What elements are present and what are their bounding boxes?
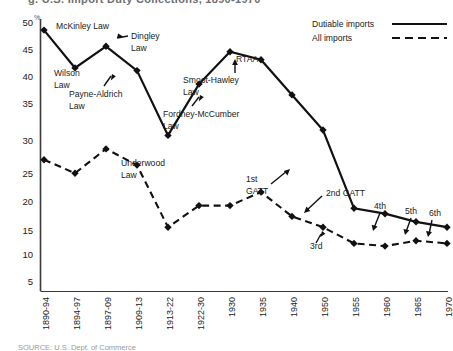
annotation-label-2: GATT bbox=[246, 186, 269, 196]
x-tick-6: 1930 bbox=[227, 297, 237, 317]
chart-legend: Dutiable imports All imports bbox=[312, 19, 447, 43]
y-tick-35: 35 bbox=[22, 98, 33, 109]
x-tick-4: 1913-22 bbox=[165, 297, 175, 330]
data-point bbox=[381, 210, 388, 217]
annotation-label: Wilson bbox=[54, 68, 80, 78]
leader-line bbox=[192, 97, 199, 106]
annotation-label-2: Law bbox=[69, 101, 86, 111]
y-tick-20: 20 bbox=[22, 196, 33, 207]
data-point bbox=[381, 242, 388, 249]
chart-figure: g. U.S. Import Duty Collections, 1890-19… bbox=[0, 0, 453, 351]
annotation-dingley-law: Dingley Law bbox=[117, 31, 160, 53]
x-tick-11: 1960 bbox=[382, 297, 392, 317]
annotation-first-gatt: 1st GATT bbox=[246, 169, 290, 196]
page-title: g. U.S. Import Duty Collections, 1890-19… bbox=[28, 0, 261, 5]
tariff-line-chart: % 50 45 40 35 30 25 20 15 10 5 1890-94 1… bbox=[0, 0, 453, 351]
annotation-label-2: Law bbox=[131, 43, 148, 53]
leader-line bbox=[307, 196, 322, 210]
x-tick-3: 1909-13 bbox=[134, 297, 144, 330]
x-tick-labels: 1890-94 1894-97 1897-09 1909-13 1913-22 … bbox=[41, 297, 453, 330]
annotation-label: 6th bbox=[429, 208, 441, 218]
x-tick-5: 1922-30 bbox=[196, 297, 206, 330]
data-point bbox=[40, 156, 47, 163]
data-point bbox=[443, 240, 450, 247]
annotation-label: Underwood bbox=[121, 158, 165, 168]
annotation-label: Smoot-Hawley bbox=[183, 75, 240, 85]
data-point bbox=[443, 224, 450, 231]
data-point bbox=[412, 237, 419, 244]
annotation-label: McKinley Law bbox=[56, 21, 110, 31]
y-tick-45: 45 bbox=[22, 44, 33, 55]
y-axis-unit-label: % bbox=[34, 14, 40, 21]
annotation-label: 5th bbox=[405, 206, 417, 216]
annotation-mckinley-law: McKinley Law bbox=[56, 21, 110, 31]
leader-line bbox=[104, 76, 111, 86]
annotation-rtaa: RTAA bbox=[236, 54, 258, 64]
annotation-fordney-mccumber-law: Fordney-McCumber Law bbox=[163, 95, 240, 131]
data-point bbox=[164, 224, 171, 231]
source-note: SOURCE: U.S. Dept. of Commerce bbox=[18, 343, 136, 351]
annotation-label: RTAA bbox=[236, 54, 258, 64]
data-point bbox=[319, 224, 326, 231]
annotation-label: 4th bbox=[374, 201, 386, 211]
y-tick-15: 15 bbox=[22, 225, 33, 236]
legend-label-all: All imports bbox=[312, 33, 352, 43]
chart-title-strip: g. U.S. Import Duty Collections, 1890-19… bbox=[0, 0, 453, 10]
y-tick-30: 30 bbox=[22, 135, 33, 146]
annotation-smoot-hawley-law: Smoot-Hawley Law bbox=[183, 59, 240, 97]
annotation-label: Fordney-McCumber bbox=[163, 109, 240, 119]
leader-arrowhead bbox=[426, 231, 432, 237]
annotation-payne-aldrich-law: Payne-Aldrich Law bbox=[69, 74, 123, 111]
annotation-wilson-law: Wilson Law bbox=[54, 68, 80, 90]
annotation-label: Payne-Aldrich bbox=[69, 89, 123, 99]
data-point bbox=[226, 202, 233, 209]
data-point bbox=[350, 205, 357, 212]
x-tick-12: 1965 bbox=[413, 297, 423, 317]
leader-arrowhead bbox=[111, 74, 116, 80]
data-point bbox=[412, 218, 419, 225]
x-tick-1: 1894-97 bbox=[72, 297, 82, 330]
x-tick-13: 1970 bbox=[444, 297, 453, 317]
annotation-label: Dingley bbox=[131, 31, 160, 41]
y-tick-labels: 50 45 40 35 30 25 20 15 10 5 bbox=[22, 17, 33, 287]
legend-label-dutiable: Dutiable imports bbox=[312, 19, 374, 29]
y-tick-40: 40 bbox=[22, 71, 33, 82]
series-line-all-imports bbox=[44, 149, 447, 246]
chart-source-strip: SOURCE: U.S. Dept. of Commerce bbox=[0, 343, 453, 351]
annotation-third-gatt: 3rd bbox=[310, 231, 325, 251]
annotation-label-2: Law bbox=[163, 121, 180, 131]
x-tick-2: 1897-09 bbox=[103, 297, 113, 330]
leader-line bbox=[271, 171, 287, 184]
y-tick-10: 10 bbox=[22, 249, 33, 260]
x-tick-7: 1935 bbox=[258, 297, 268, 317]
x-tick-8: 1940 bbox=[289, 297, 299, 317]
y-tick-25: 25 bbox=[22, 168, 33, 179]
x-tick-0: 1890-94 bbox=[41, 297, 51, 330]
annotation-label: 2nd GATT bbox=[326, 188, 366, 198]
annotation-label-2: Law bbox=[183, 87, 200, 97]
y-tick-5: 5 bbox=[28, 276, 33, 287]
series-markers-all-imports bbox=[40, 145, 450, 250]
leader-arrowhead bbox=[199, 95, 204, 101]
y-tick-50: 50 bbox=[22, 17, 33, 28]
data-point bbox=[350, 240, 357, 247]
leader-arrowhead bbox=[372, 225, 378, 231]
leader-arrowhead bbox=[404, 229, 410, 235]
annotation-label: 1st bbox=[246, 174, 258, 184]
x-tick-10: 1955 bbox=[351, 297, 361, 317]
annotation-label-2: Law bbox=[121, 170, 138, 180]
annotation-sixth-gatt: 6th bbox=[426, 208, 441, 237]
x-tick-9: 1950 bbox=[320, 297, 330, 317]
